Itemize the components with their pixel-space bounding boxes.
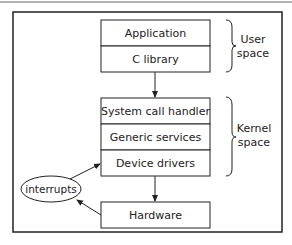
user-space-brace (226, 20, 236, 72)
application-label: Application (125, 27, 186, 40)
system-call-handler-label: System call handler (101, 105, 210, 118)
kernel-space-label-line1: Kernel (237, 122, 272, 135)
kernel-space-label-line2: space (238, 136, 271, 149)
kernel-space-stack: System call handler Generic services Dev… (101, 98, 210, 176)
device-drivers-label: Device drivers (116, 157, 195, 170)
user-space-label-line1: User (240, 33, 266, 46)
hardware-label: Hardware (129, 209, 182, 222)
generic-services-label: Generic services (110, 131, 202, 144)
kernel-space-brace (226, 97, 236, 176)
c-library-label: C library (132, 53, 179, 66)
kernel-architecture-diagram: Application C library System call handle… (0, 0, 292, 245)
arrow-interrupts-to-drivers (70, 164, 100, 179)
arrow-hardware-to-interrupts (77, 200, 101, 215)
interrupts-label: interrupts (25, 183, 77, 195)
user-space-label-line2: space (237, 47, 270, 60)
user-space-stack: Application C library (101, 20, 210, 72)
